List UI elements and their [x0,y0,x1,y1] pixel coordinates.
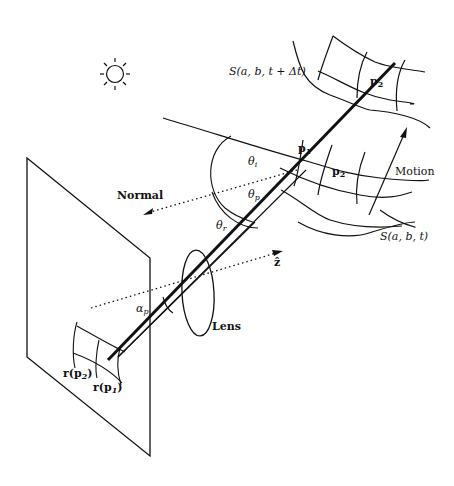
surface-now-label: S(a, b, t) [380,230,428,243]
r-p2-label: r(p2) [63,367,93,381]
alpha-p-label: αp [136,302,149,316]
normal-arrowhead [143,208,153,215]
image-plane [27,158,150,456]
motion-label: Motion [395,165,435,178]
p2-mid-label: p2 [332,165,345,179]
p1-label: p1 [298,142,311,156]
sun-icon [100,58,130,90]
lens-label: Lens [212,320,241,333]
optics-diagram: S(a, b, t + Δt) p2 p1 p2 Motion S(a, b, … [0,0,454,486]
r-p1-label: r(p1) [93,381,123,395]
theta-i-label: θi [248,155,258,169]
motion-arrowhead [400,127,407,138]
normal-line [147,170,297,213]
theta-r-label: θr [216,219,228,233]
theta-p-label: θp [248,188,260,202]
surface-next-label: S(a, b, t + Δt) [229,65,306,78]
lens [180,249,216,337]
z-hat-label: ẑ [274,256,280,269]
normal-label: Normal [117,189,163,202]
secondary-ray-to-lens [118,222,255,357]
surface-now [163,118,429,236]
surface-next [293,36,430,128]
